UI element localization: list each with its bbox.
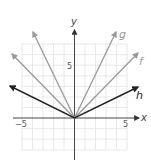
x-tick-label-5: 5	[123, 120, 128, 129]
function-h-label: h	[136, 89, 143, 102]
y-axis-label: y	[70, 16, 78, 27]
x-axis-label: x	[140, 112, 147, 123]
y-tick-label-5: 5	[67, 62, 72, 71]
x-tick-label-neg5: −5	[15, 120, 27, 129]
function-f-label: f	[139, 55, 145, 68]
coordinate-plane-diagram: x y −5 5 5 g f h	[0, 0, 151, 168]
function-g-label: g	[119, 28, 126, 41]
